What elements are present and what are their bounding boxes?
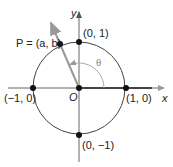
- point-bottom: [76, 132, 82, 138]
- label-x-axis: x: [161, 92, 168, 104]
- label-origin: O: [69, 91, 78, 103]
- terminal-ray: [51, 23, 79, 88]
- point-top: [76, 39, 82, 45]
- label-right: (1, 0): [126, 92, 152, 104]
- point-right: [123, 85, 129, 91]
- label-theta: θ: [96, 56, 101, 68]
- label-p: P = (a, b): [16, 37, 61, 49]
- label-left: (−1, 0): [4, 92, 36, 104]
- label-y-axis: y: [70, 7, 78, 19]
- point-left: [30, 85, 36, 91]
- unit-circle-diagram: P = (a, b) (0, 1) (1, 0) (−1, 0) (0, −1)…: [0, 0, 173, 167]
- label-top: (0, 1): [83, 27, 109, 39]
- label-bottom: (0, −1): [82, 139, 114, 151]
